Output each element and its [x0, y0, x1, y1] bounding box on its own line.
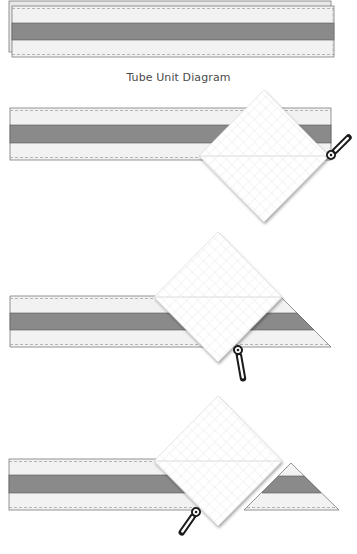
step-3-diagram	[9, 396, 339, 538]
rotary-cutter-icon	[232, 344, 248, 382]
tube-unit	[9, 1, 334, 57]
tube-front-strip	[12, 6, 334, 57]
diagram-caption: Tube Unit Diagram	[0, 71, 357, 84]
step-1-diagram	[10, 90, 354, 222]
step-2-diagram	[10, 232, 331, 382]
